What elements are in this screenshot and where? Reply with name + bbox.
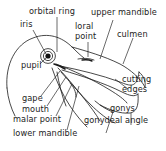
leader-upper-mandible xyxy=(100,20,113,59)
label-culmen: culmen xyxy=(117,30,148,39)
label-gape: gape xyxy=(22,94,43,103)
label-cutting-edges-line2: edges xyxy=(122,85,147,94)
nostril-slit xyxy=(82,60,92,61)
label-pupil: pupil xyxy=(21,61,42,70)
nape-outline xyxy=(7,88,15,116)
label-loral-point-line2: point xyxy=(75,32,96,41)
label-gonydeal-angle: gonydeal angle xyxy=(84,116,148,125)
label-mouth: mouth xyxy=(22,105,49,114)
leader-iris xyxy=(33,30,46,54)
leader-gape xyxy=(41,71,60,96)
leader-culmen xyxy=(123,38,133,64)
leader-lower-mandible xyxy=(67,86,79,130)
crown-outline xyxy=(7,35,84,88)
label-loral-point-line1: loral xyxy=(75,22,93,31)
pupil-dot xyxy=(45,53,50,58)
label-gonys: gonys xyxy=(110,104,135,113)
label-malar-point: malar point xyxy=(13,115,61,124)
bird-bill-topography-diagram: orbital ring iris pupil loral point uppe… xyxy=(0,0,166,151)
gape-line xyxy=(56,64,127,103)
label-iris: iris xyxy=(20,20,33,29)
label-cutting-edges-line1: cutting xyxy=(122,75,151,84)
label-upper-mandible: upper mandible xyxy=(91,8,157,17)
label-orbital-ring: orbital ring xyxy=(29,7,75,16)
label-lower-mandible: lower mandible xyxy=(13,129,77,138)
